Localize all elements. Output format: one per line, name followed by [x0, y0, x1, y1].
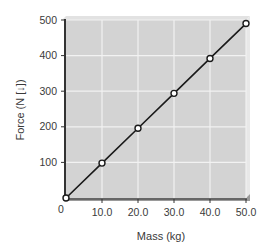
data-point-marker [243, 21, 249, 27]
x-axis-ticks: 010.020.030.040.050.0 [58, 199, 256, 218]
x-tick-label: 20.0 [128, 206, 149, 218]
x-tick-label: 50.0 [236, 206, 257, 218]
y-tick-label: 300 [39, 85, 57, 97]
x-tick-label: 0 [58, 203, 64, 215]
data-point-marker [63, 195, 69, 201]
data-point-marker [99, 160, 105, 166]
x-tick-label: 30.0 [164, 206, 185, 218]
force-mass-chart: 100200300400500 010.020.030.040.050.0 Ma… [0, 0, 263, 251]
x-tick-label: 40.0 [200, 206, 221, 218]
data-point-marker [135, 125, 141, 131]
x-axis-label: Mass (kg) [137, 230, 185, 242]
y-axis-ticks: 100200300400500 [39, 14, 65, 168]
plot-right-bevel [246, 16, 250, 198]
y-tick-label: 100 [39, 156, 57, 168]
data-point-marker [171, 90, 177, 96]
y-tick-label: 400 [39, 49, 57, 61]
x-tick-label: 10.0 [92, 206, 113, 218]
data-point-marker [207, 55, 213, 61]
y-tick-label: 500 [39, 14, 57, 26]
y-tick-label: 200 [39, 120, 57, 132]
y-axis-label: Force (N [↓]) [14, 79, 26, 140]
